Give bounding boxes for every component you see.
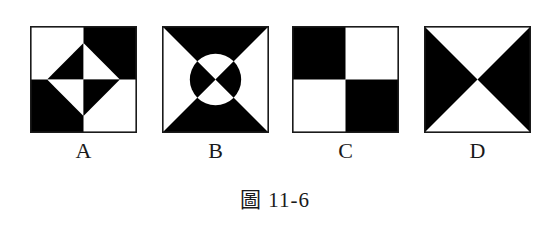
figure-a-drawing [30,26,137,133]
figure-c-drawing [292,26,399,133]
figure-caption: 圖 11-6 [0,183,550,213]
figure-d-drawing [424,26,531,133]
figure-d-label: D [424,139,531,163]
figure-b-drawing [162,26,269,133]
figure-a [30,26,137,133]
figure-b-label: B [162,139,269,163]
figure-d [424,26,531,133]
figure-c-label: C [292,139,399,163]
figure-a-label: A [30,139,137,163]
figure-b [162,26,269,133]
figure-c [292,26,399,133]
